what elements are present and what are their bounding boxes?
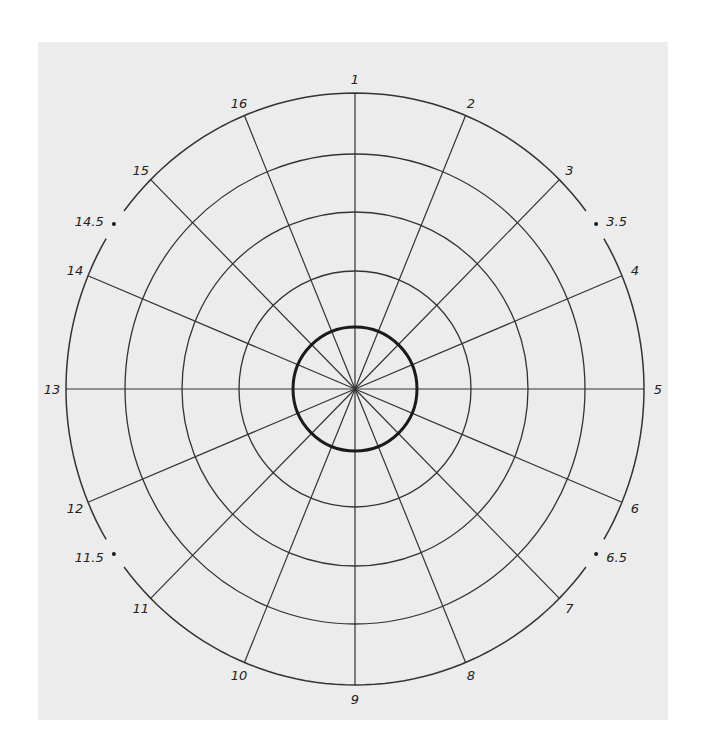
spoke-16 bbox=[244, 116, 355, 389]
half-mark-dot bbox=[112, 552, 116, 556]
sector-label-10: 10 bbox=[231, 668, 248, 683]
half-mark-dot bbox=[594, 552, 598, 556]
spoke-8 bbox=[355, 389, 466, 662]
spoke-2 bbox=[355, 116, 466, 389]
sector-label-2: 2 bbox=[467, 96, 475, 111]
half-mark-dot bbox=[594, 222, 598, 226]
spoke-4 bbox=[355, 276, 622, 389]
sector-label-12: 12 bbox=[67, 501, 84, 516]
spoke-12 bbox=[88, 389, 355, 502]
sector-label-16: 16 bbox=[231, 96, 248, 111]
sector-label-4: 4 bbox=[631, 263, 639, 278]
spoke-11 bbox=[151, 389, 355, 598]
sector-label-3: 3 bbox=[565, 163, 573, 178]
sector-label-8: 8 bbox=[467, 668, 475, 683]
spoke-15 bbox=[151, 180, 355, 389]
sector-label-15: 15 bbox=[132, 163, 149, 178]
spoke-7 bbox=[355, 389, 559, 598]
half-mark-label-6-5: 6.5 bbox=[606, 550, 627, 565]
sector-label-11: 11 bbox=[132, 601, 149, 616]
sector-label-9: 9 bbox=[351, 692, 359, 707]
spoke-3 bbox=[355, 180, 559, 389]
sector-label-14: 14 bbox=[67, 263, 84, 278]
spoke-10 bbox=[244, 389, 355, 662]
half-mark-label-14-5: 14.5 bbox=[75, 214, 104, 229]
sector-label-13: 13 bbox=[44, 382, 61, 397]
radial-spokes bbox=[66, 93, 644, 685]
half-mark-label-11-5: 11.5 bbox=[75, 550, 104, 565]
polar-diagram: 12345678910111213141516 3.56.511.514.5 bbox=[0, 0, 708, 748]
sector-label-1: 1 bbox=[351, 72, 359, 87]
half-mark-label-3-5: 3.5 bbox=[606, 214, 627, 229]
spoke-14 bbox=[88, 276, 355, 389]
half-mark-dot bbox=[112, 222, 116, 226]
sector-label-6: 6 bbox=[631, 501, 639, 516]
sector-label-7: 7 bbox=[565, 601, 574, 616]
spoke-6 bbox=[355, 389, 622, 502]
sector-label-5: 5 bbox=[654, 382, 662, 397]
